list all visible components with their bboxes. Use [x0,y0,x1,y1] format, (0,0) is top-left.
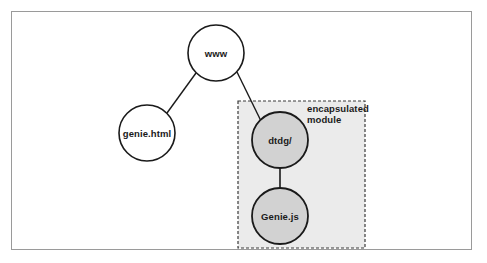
tree-diagram: www genie.html dtdg/ Genie.js encapsulat… [0,0,487,263]
encapsulated-module-label-line2: module [307,114,341,125]
node-genie-html-label: genie.html [123,128,172,139]
encapsulated-module-label-line1: encapsulated [307,103,369,114]
node-genie-js-label: Genie.js [261,211,299,222]
diagram-canvas: www genie.html dtdg/ Genie.js encapsulat… [0,0,487,263]
node-dtdg-label: dtdg/ [268,135,292,146]
node-www-label: www [204,48,228,59]
